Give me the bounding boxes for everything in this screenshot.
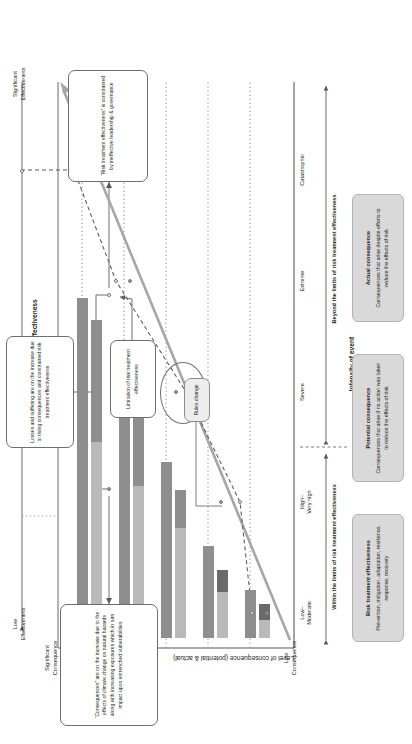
xtick-line1: Extreme	[299, 271, 305, 292]
card-desc: Prevention, mitigation, adaptation, resi…	[375, 520, 391, 636]
xtick-extreme: Extreme	[299, 251, 306, 311]
bar-high-veryhigh-actual	[217, 570, 228, 638]
callout-text: Rules change	[193, 384, 201, 415]
bar-extreme-actual	[133, 402, 144, 638]
xtick-line1: Severe	[299, 383, 305, 401]
callout-text: Losses and suffering are on the increase…	[29, 341, 52, 443]
rte-high-line1: Significant	[12, 71, 18, 97]
marker-rte-axis-endpoint	[20, 169, 24, 173]
card-risk-treatment-effectiveness: Risk treatment effectiveness Prevention,…	[352, 514, 404, 642]
card-title: Potential consequence	[365, 388, 373, 449]
bar-high-veryhigh-potential	[203, 546, 214, 638]
xtick-line2: Very high	[306, 490, 312, 513]
callout-limitation: Limitation of risk treatment effectivene…	[110, 340, 156, 418]
xtick-severe: Severe	[299, 362, 306, 422]
y-axis-low-label: Low Consequence	[283, 632, 298, 684]
card-title: Risk treatment effectiveness	[365, 540, 373, 616]
diagram-frame: Low– Moderate High– Very high Severe Ext…	[0, 0, 412, 744]
callout-rte-constrained: “Risk treatment effectiveness” is constr…	[68, 70, 148, 182]
y-low-line2: Consequence	[291, 641, 297, 676]
callout-text: “Risk treatment effectiveness” is constr…	[100, 75, 115, 177]
bar-catastrophic-potential	[77, 298, 88, 638]
xtick-low-moderate: Low– Moderate	[299, 583, 314, 643]
y-high-line2: Consequence	[52, 641, 58, 676]
callout-consequences-increase: “Consequences” are on the increase due t…	[60, 604, 158, 726]
bar-low-moderate-actual	[259, 604, 270, 638]
xtick-line1: Low–	[299, 606, 305, 619]
y-low-line1: Low	[283, 653, 289, 663]
rte-low-line2: Effectiveness	[20, 607, 26, 640]
diagram-canvas: Low– Moderate High– Very high Severe Ext…	[0, 0, 412, 744]
rte-low-line1: Low	[12, 619, 18, 629]
callout-rules-change: Rules change	[184, 378, 210, 422]
card-title: Actual consequence	[365, 231, 373, 285]
rte-high-line2: Effectiveness	[20, 67, 26, 100]
bracket-within-label: Within the limits of risk treatment effe…	[331, 467, 339, 627]
bracket-beyond-label: Beyond the limits of risk treatment effe…	[331, 174, 339, 344]
card-potential-consequence: Potential consequence Consequences that …	[352, 354, 404, 482]
card-desc: Consequences that arise if no action was…	[375, 360, 391, 476]
callout-losses-suffering: Losses and suffering are on the increase…	[6, 336, 74, 448]
xtick-line2: Moderate	[306, 601, 312, 625]
callout-text: Limitation of risk treatment effectivene…	[125, 345, 140, 413]
bar-severe-actual	[175, 490, 186, 638]
y-axis-title: Level of consequence (potential & actual…	[173, 655, 294, 662]
xtick-line1: Catastrophic	[299, 154, 305, 185]
card-desc: Consequences that arise despite efforts …	[375, 200, 391, 316]
rte-low-label: Low Effectiveness	[12, 596, 27, 652]
xtick-high-veryhigh: High– Very high	[299, 472, 314, 532]
bar-catastrophic-actual	[91, 320, 102, 638]
callout-text: “Consequences” are on the increase due t…	[94, 609, 125, 721]
xtick-line1: High–	[299, 495, 305, 510]
xtick-catastrophic: Catastrophic	[299, 140, 306, 200]
card-actual-consequence: Actual consequence Consequences that ari…	[352, 194, 404, 322]
bar-severe-potential	[161, 462, 172, 638]
y-high-line1: Significant	[44, 645, 50, 671]
rte-high-label: Significant Effectiveness	[12, 54, 27, 114]
y-axis-high-label: Significant Consequence	[44, 632, 59, 684]
